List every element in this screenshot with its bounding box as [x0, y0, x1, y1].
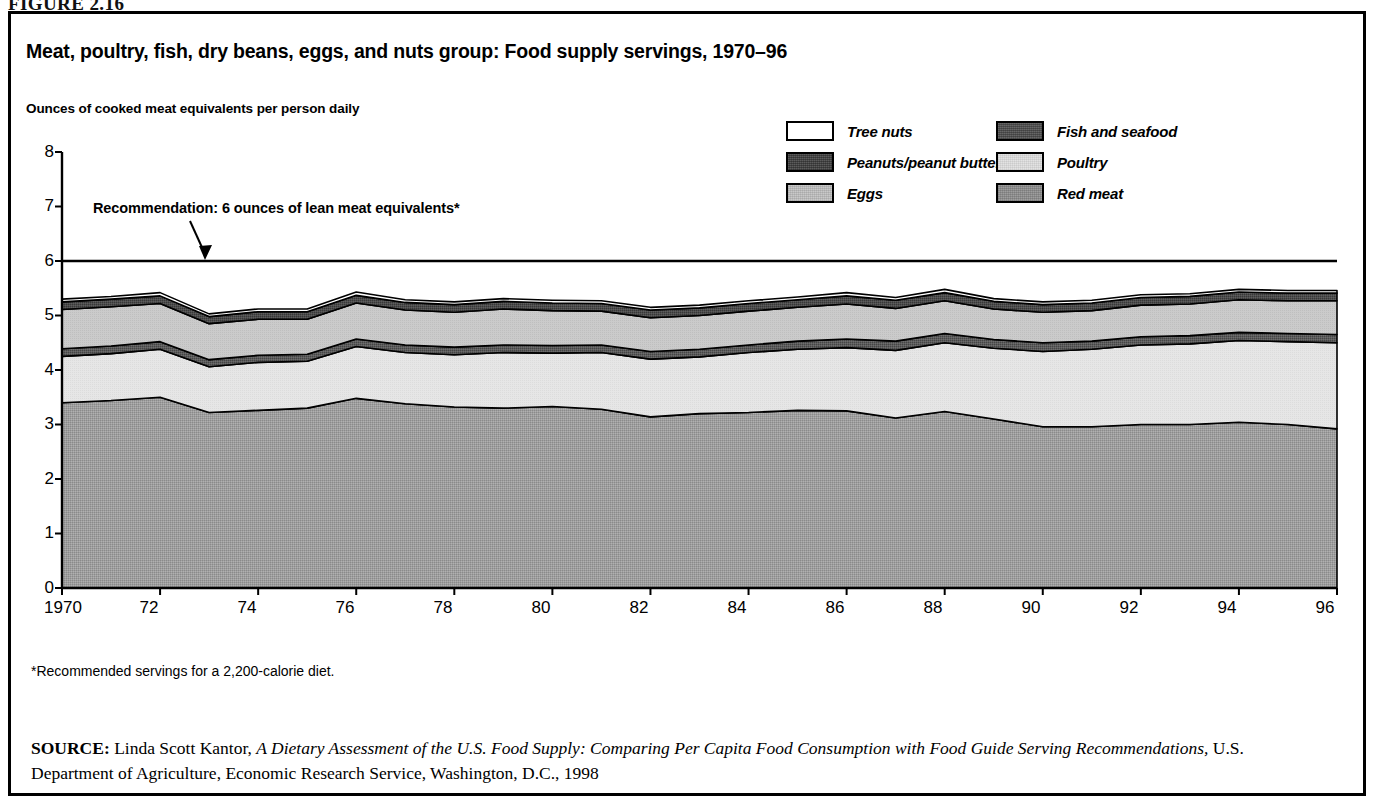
x-tick-82: 82: [616, 598, 662, 618]
y-tick-4: 4: [24, 360, 54, 380]
source-line: SOURCE: Linda Scott Kantor, A Dietary As…: [31, 736, 1321, 786]
x-tick-90: 90: [1008, 598, 1054, 618]
x-tick-84: 84: [714, 598, 760, 618]
y-tick-1: 1: [24, 523, 54, 543]
x-tick-76: 76: [322, 598, 368, 618]
source-work-title: A Dietary Assessment of the U.S. Food Su…: [256, 738, 1208, 758]
x-tick-88: 88: [910, 598, 956, 618]
x-tick-92: 92: [1106, 598, 1152, 618]
x-tick-72: 72: [126, 598, 172, 618]
source-label: SOURCE:: [31, 738, 110, 758]
y-tick-6: 6: [24, 251, 54, 271]
x-tick-96: 96: [1302, 598, 1348, 618]
y-tick-2: 2: [24, 469, 54, 489]
x-tick-86: 86: [812, 598, 858, 618]
footnote: *Recommended servings for a 2,200-calori…: [31, 663, 335, 679]
x-tick-78: 78: [420, 598, 466, 618]
area-red-meat: [62, 397, 1337, 588]
y-tick-3: 3: [24, 414, 54, 434]
source-author: Linda Scott Kantor,: [110, 738, 257, 758]
y-tick-7: 7: [24, 196, 54, 216]
x-tick-80: 80: [518, 598, 564, 618]
x-tick-1970: 1970: [28, 598, 98, 618]
y-tick-0: 0: [24, 578, 54, 598]
annotation-arrow-head: [199, 245, 212, 260]
recommendation-annotation: Recommendation: 6 ounces of lean meat eq…: [93, 200, 459, 216]
y-tick-5: 5: [24, 305, 54, 325]
plot-area: 8 7 6 5 4 3 2 1 0 1970 72 74 76 78 80 82…: [0, 0, 1382, 811]
x-tick-94: 94: [1204, 598, 1250, 618]
y-tick-8: 8: [24, 142, 54, 162]
stacked-area-chart: [0, 0, 1382, 811]
x-tick-74: 74: [224, 598, 270, 618]
